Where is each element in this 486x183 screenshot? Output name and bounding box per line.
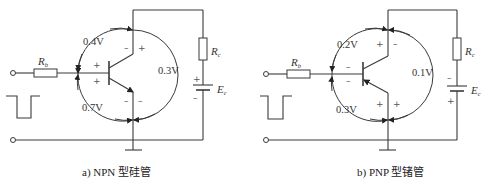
npn-cb-voltage: 0.4V [83,36,104,47]
rc-resistor [453,38,461,60]
sign: + [93,60,101,70]
sign: + [93,76,101,86]
sign: – [193,93,198,103]
sign: – [346,76,351,86]
rc-label: Rc [464,45,475,58]
npn-ce-voltage: 0.3V [158,65,179,76]
pnp-caption: b) PNP 型锗管 [357,165,424,179]
rc-resistor [199,38,207,60]
sign: – [447,73,452,83]
sign: – [124,96,129,106]
sign: – [346,62,351,72]
ec-label: Ec [216,83,227,96]
input-terminal-bottom [11,138,16,143]
sign: + [138,43,146,53]
sign: + [376,39,384,49]
input-terminal-top [264,72,269,77]
rb-resistor [34,69,57,77]
ec-label: Ec [470,84,481,97]
input-terminal-top [11,71,16,76]
npn-be-voltage: 0.7V [82,102,103,113]
pnp-cb-voltage: 0.2V [337,39,358,50]
rb-label: Rb [37,55,49,68]
input-terminal-bottom [264,138,269,143]
sign: + [393,99,401,109]
sign: – [124,43,129,53]
npn-circuit: Rb Rc Ec 0.4V 0.3V 0.7V + + – + – – + – … [6,10,227,179]
sign: + [193,74,201,84]
sign: + [447,96,455,106]
input-pulse-icon [260,96,292,119]
rc-label: Rc [210,45,221,58]
sign: – [138,96,143,106]
pnp-be-voltage: 0.3V [336,104,357,115]
npn-caption: a) NPN 型硅管 [82,165,151,179]
pnp-circuit: Rb Rc Ec 0.2V 0.1V 0.3V – – + – + + – + … [260,10,481,179]
rb-resistor [287,70,310,78]
input-pulse-icon [6,96,40,118]
pnp-ce-voltage: 0.1V [412,67,433,78]
transistor-saturation-diagrams: Rb Rc Ec 0.4V 0.3V 0.7V + + – + – – + – … [0,0,486,183]
sign: – [393,39,398,49]
rb-label: Rb [290,56,302,69]
sign: + [376,99,384,109]
